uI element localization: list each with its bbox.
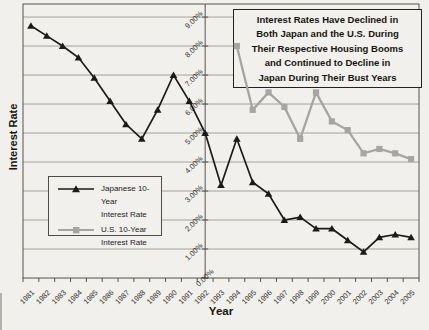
x-tick-label: 2002 — [351, 288, 369, 306]
y-tick-label: 1.00% — [183, 241, 205, 263]
x-tick-label: 1997 — [272, 288, 290, 306]
japan-data-point-triangle — [376, 234, 384, 241]
chart-title-line: and Continued to Decline in — [234, 56, 421, 70]
japan-data-point-triangle — [312, 225, 320, 232]
legend-label: Interest Rate — [101, 236, 147, 249]
us-data-point-square — [281, 104, 287, 110]
us-series-legend-marker — [57, 225, 95, 235]
japan-data-point-triangle — [391, 231, 399, 238]
y-tick-label: 5.00% — [183, 125, 205, 147]
x-tick-label: 1994 — [224, 288, 242, 306]
us-data-point-square — [392, 150, 398, 156]
japan-data-point-triangle — [90, 74, 98, 81]
japan-data-point-triangle — [281, 216, 289, 223]
japan-data-point-triangle — [106, 98, 114, 105]
x-tick-label: 1984 — [66, 288, 84, 306]
japan-data-point-triangle — [186, 98, 194, 105]
japan-data-point-triangle — [344, 237, 352, 244]
japan-data-point-triangle — [59, 42, 67, 49]
japan-data-point-triangle — [265, 190, 273, 197]
y-tick-label: 3.00% — [183, 183, 205, 205]
x-tick-label: 1990 — [161, 288, 179, 306]
x-tick-label: 1988 — [129, 288, 147, 306]
us-data-point-square — [313, 89, 319, 95]
chart-page: 0.00%1.00%2.00%3.00%4.00%5.00%6.00%7.00%… — [0, 0, 429, 330]
legend-label: Japanese 10-Year — [101, 182, 161, 208]
us-data-point-square — [360, 150, 366, 156]
y-tick-label: 0.00% — [194, 267, 216, 289]
legend-item-us: U.S. 10-Year Interest Rate — [57, 223, 161, 249]
y-tick-label: 4.00% — [183, 154, 205, 176]
x-tick-label: 1992 — [192, 288, 210, 306]
us-data-point-square — [408, 156, 414, 162]
us-data-point-square — [376, 146, 382, 152]
legend-item-japan: Japanese 10-Year Interest Rate — [57, 182, 161, 221]
chart-title-box: Interest Rates Have Declined in Both Jap… — [233, 9, 422, 88]
japan-data-point-triangle — [296, 214, 304, 221]
y-axis-title: Interest Rate — [7, 97, 19, 177]
legend: Japanese 10-Year Interest Rate U.S. 10-Y… — [48, 176, 162, 236]
japan-data-point-triangle — [217, 182, 225, 189]
japan-series-legend-marker — [57, 184, 95, 194]
chart-title-line: Their Respective Housing Booms — [234, 42, 421, 56]
x-tick-label: 2000 — [319, 288, 337, 306]
chart-title-line: Both Japan and the U.S. During — [234, 27, 421, 41]
x-tick-label: 1993 — [208, 288, 226, 306]
x-tick-label: 1999 — [303, 288, 321, 306]
japan-data-point-triangle — [75, 54, 83, 61]
x-tick-label: 1987 — [113, 288, 131, 306]
x-tick-label: 1995 — [240, 288, 258, 306]
japan-data-point-triangle — [170, 71, 178, 78]
x-tick-label: 2001 — [335, 288, 353, 306]
x-tick-label: 1986 — [97, 288, 115, 306]
japan-data-point-triangle — [328, 225, 336, 232]
legend-label: U.S. 10-Year — [101, 223, 147, 236]
japan-data-point-triangle — [122, 121, 130, 128]
japan-data-point-triangle — [43, 32, 51, 38]
x-tick-label: 1985 — [82, 288, 100, 306]
scan-edge-artifact — [0, 293, 2, 330]
us-data-point-square — [329, 118, 335, 124]
x-tick-label: 2005 — [398, 288, 416, 306]
japan-data-point-triangle — [233, 135, 241, 142]
japan-data-point-triangle — [201, 129, 209, 136]
legend-label: Interest Rate — [101, 208, 161, 221]
x-tick-label: 2004 — [382, 288, 400, 306]
us-data-point-square — [297, 136, 303, 142]
chart-title-line: Japan During Their Bust Years — [234, 71, 421, 85]
x-tick-label: 1981 — [18, 288, 36, 306]
x-tick-label: 1996 — [256, 288, 274, 306]
japan-data-point-triangle — [154, 106, 162, 113]
x-tick-label: 2003 — [367, 288, 385, 306]
japan-data-point-triangle — [138, 135, 146, 142]
us-data-point-square — [265, 89, 271, 95]
us-data-point-square — [345, 127, 351, 133]
japan-data-point-triangle — [360, 248, 368, 255]
japan-data-point-triangle — [27, 22, 35, 29]
x-axis-title: Year — [23, 305, 419, 317]
y-tick-label: 6.00% — [183, 96, 205, 118]
square-marker-icon — [73, 227, 79, 233]
x-tick-label: 1989 — [145, 288, 163, 306]
japan-data-point-triangle — [407, 234, 415, 241]
x-tick-label: 1983 — [50, 288, 68, 306]
chart-title-line: Interest Rates Have Declined in — [234, 13, 421, 27]
x-tick-label: 1982 — [34, 288, 52, 306]
x-tick-label: 1998 — [287, 288, 305, 306]
y-tick-label: 7.00% — [183, 67, 205, 89]
y-tick-label: 8.00% — [183, 38, 205, 60]
x-tick-label: 1991 — [177, 288, 195, 306]
japan-data-point-triangle — [249, 179, 257, 186]
y-tick-label: 2.00% — [183, 212, 205, 234]
y-tick-label: 9.00% — [183, 9, 205, 31]
us-data-point-square — [250, 107, 256, 113]
